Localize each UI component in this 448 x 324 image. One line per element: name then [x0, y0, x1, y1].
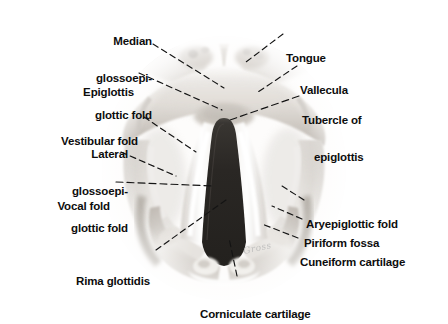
label-tubercle-of-epiglottis: Tubercle of epiglottis	[302, 89, 444, 188]
label-line: Rima glottidis	[10, 275, 150, 287]
cuneiform-cartilage-left	[156, 223, 185, 248]
label-line: Tubercle of	[302, 114, 444, 126]
leader-corniculate-cartilage	[229, 238, 237, 276]
corniculate-cartilage-right	[229, 257, 255, 275]
aryepiglottic-fold-left	[149, 206, 220, 282]
leader-vocal-fold	[116, 182, 214, 186]
rima-glottidis-shape	[202, 118, 246, 266]
label-line: Median	[10, 35, 152, 47]
label-line: Vocal fold	[10, 200, 110, 212]
label-line: Epiglottis	[10, 86, 134, 98]
tubercle-of-epiglottis-shape	[194, 103, 254, 129]
leader-median-glossoepiglottic-fold	[153, 44, 224, 88]
artist-signature: Gross	[242, 240, 272, 256]
label-line: Lateral	[10, 148, 128, 160]
vocal-fold-left	[180, 122, 218, 244]
leader-piriform-fossa	[272, 206, 302, 219]
label-line: Cuneiform cartilage	[300, 256, 448, 268]
label-line: Corniculate cartilage	[200, 308, 370, 320]
vallecula-right	[235, 46, 269, 68]
leader-tongue	[246, 34, 283, 62]
corniculate-cartilage-left	[193, 257, 219, 275]
vocal-fold-right	[230, 122, 268, 244]
leader-tubercle-of-epiglottis	[230, 96, 299, 120]
leader-cuneiform-cartilage	[262, 224, 298, 238]
label-rima-glottidis: Rima glottidis	[10, 250, 150, 312]
label-line: epiglottis	[302, 151, 444, 163]
vallecula-left	[179, 46, 213, 68]
label-vocal-fold: Vocal fold	[10, 175, 110, 237]
leader-rima-glottidis	[156, 200, 226, 250]
label-corniculate-cartilage: Corniculate cartilage	[200, 283, 370, 324]
median-glossoepiglottic-fold-shape	[219, 44, 229, 74]
leader-aryepiglottic-fold	[282, 186, 304, 200]
